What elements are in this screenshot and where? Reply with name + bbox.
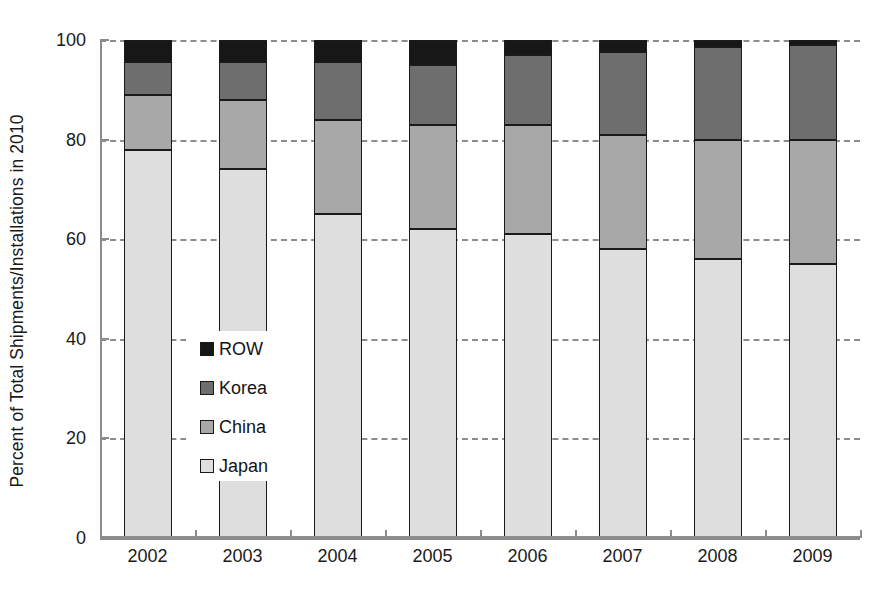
x-tick-label-2005: 2005 [412,546,452,567]
bar-segment-japan-2005[interactable] [409,229,457,538]
bar-segment-japan-2002[interactable] [124,150,172,538]
x-tick-mark-5 [575,530,577,538]
x-tick-mark-end [860,530,862,538]
bar-stack [694,40,742,538]
x-tick-label-2008: 2008 [697,546,737,567]
bar-stack [789,40,837,538]
bar-group-2008[interactable] [694,40,742,538]
bar-stack [409,40,457,538]
bar-segment-row-2004[interactable] [314,40,362,62]
bar-segment-row-2007[interactable] [599,40,647,52]
bar-segment-korea-2006[interactable] [504,55,552,125]
legend-item-korea[interactable]: Korea [200,379,267,397]
bar-stack [504,40,552,538]
bar-segment-row-2002[interactable] [124,40,172,62]
x-tick-label-2006: 2006 [507,546,547,567]
bar-segment-korea-2004[interactable] [314,62,362,119]
y-axis-spine [100,40,102,538]
x-tick-label-2009: 2009 [792,546,832,567]
y-tick-label-20: 20 [30,428,86,449]
bar-segment-japan-2006[interactable] [504,234,552,538]
bar-segment-china-2009[interactable] [789,140,837,265]
gridline-0 [100,538,860,540]
legend-item-japan[interactable]: Japan [200,457,268,475]
legend-label: Japan [219,457,268,475]
gridline-100 [100,40,860,42]
bar-segment-japan-2008[interactable] [694,259,742,538]
y-tick-label-0: 0 [30,528,86,549]
x-tick-mark-3 [385,530,387,538]
x-tick-label-2003: 2003 [222,546,262,567]
bar-segment-row-2005[interactable] [409,40,457,65]
bar-segment-row-2009[interactable] [789,40,837,45]
bar-segment-korea-2005[interactable] [409,65,457,125]
x-tick-label-2002: 2002 [127,546,167,567]
x-tick-mark-6 [670,530,672,538]
bar-group-2002[interactable] [124,40,172,538]
bar-group-2006[interactable] [504,40,552,538]
y-tick-label-100: 100 [30,30,86,51]
y-tick-label-80: 80 [30,129,86,150]
x-tick-label-2007: 2007 [602,546,642,567]
legend-item-china[interactable]: China [200,418,266,436]
y-tick-label-40: 40 [30,328,86,349]
bar-segment-japan-2004[interactable] [314,214,362,538]
legend-swatch-japan-icon [200,459,214,473]
chart-legend: ROWKoreaChinaJapan [186,331,314,481]
bar-segment-korea-2003[interactable] [219,62,267,99]
legend-swatch-row-icon [200,342,214,356]
x-tick-mark-1 [195,530,197,538]
bar-stack [599,40,647,538]
bar-segment-korea-2007[interactable] [599,52,647,134]
legend-item-row[interactable]: ROW [200,340,263,358]
bar-segment-row-2003[interactable] [219,40,267,62]
legend-label: ROW [219,340,263,358]
gridline-80 [100,140,860,142]
legend-swatch-korea-icon [200,381,214,395]
bar-segment-korea-2009[interactable] [789,45,837,140]
bar-segment-row-2006[interactable] [504,40,552,55]
bar-segment-china-2008[interactable] [694,140,742,260]
legend-label: Korea [219,379,267,397]
gridline-60 [100,239,860,241]
x-tick-mark-7 [765,530,767,538]
stacked-bar-chart-figure: Percent of Total Shipments/Installations… [0,0,884,602]
bar-group-2004[interactable] [314,40,362,538]
x-tick-mark-2 [290,530,292,538]
x-tick-mark-0 [100,530,102,538]
y-tick-label-60: 60 [30,229,86,250]
bar-segment-china-2002[interactable] [124,95,172,150]
bar-segment-china-2003[interactable] [219,100,267,170]
bar-group-2007[interactable] [599,40,647,538]
bar-segment-korea-2008[interactable] [694,47,742,139]
bar-stack [124,40,172,538]
bar-segment-china-2007[interactable] [599,135,647,250]
bar-segment-china-2006[interactable] [504,125,552,235]
y-axis-title: Percent of Total Shipments/Installations… [0,0,34,602]
bar-stack [314,40,362,538]
legend-swatch-china-icon [200,420,214,434]
legend-label: China [219,418,266,436]
bar-segment-china-2004[interactable] [314,120,362,215]
bar-segment-china-2005[interactable] [409,125,457,230]
bar-group-2005[interactable] [409,40,457,538]
x-tick-label-2004: 2004 [317,546,357,567]
bar-segment-korea-2002[interactable] [124,62,172,94]
bar-segment-row-2008[interactable] [694,40,742,47]
bar-group-2009[interactable] [789,40,837,538]
bar-segment-japan-2007[interactable] [599,249,647,538]
x-tick-mark-4 [480,530,482,538]
bar-segment-japan-2009[interactable] [789,264,837,538]
